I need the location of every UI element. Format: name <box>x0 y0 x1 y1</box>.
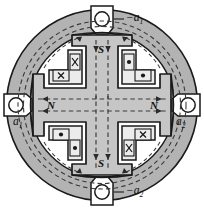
pole-label-top: S <box>98 44 104 55</box>
terminal-conductor-right <box>181 98 195 112</box>
pole-label-bottom: S <box>98 158 104 169</box>
terminal-label-bottom: −a2 <box>126 185 143 199</box>
terminal-conductor-top <box>95 12 109 26</box>
terminal-label-top: −a1 <box>126 12 143 26</box>
terminal-label-bottom-prefix: − <box>126 184 134 196</box>
terminal-label-right-sub: 2 <box>182 121 186 130</box>
terminal-label-bottom-sub: 2 <box>140 190 144 199</box>
terminal-slot-top[interactable] <box>91 6 113 34</box>
pole-label-right: N <box>150 100 158 111</box>
terminal-label-left-sub: 1 <box>19 121 23 130</box>
pole-label-left: N <box>47 100 55 111</box>
machine-cross-section-figure: −a1 a1 a2 −a2 S N N S <box>0 0 204 211</box>
terminal-conductor-left <box>9 98 23 112</box>
terminal-label-left: a1 <box>13 116 23 130</box>
terminal-slot-bottom[interactable] <box>91 177 113 205</box>
terminal-label-top-sub: 1 <box>140 17 144 26</box>
terminal-label-top-prefix: − <box>126 11 134 23</box>
terminal-conductor-bottom <box>95 185 109 199</box>
terminal-label-right: a2 <box>176 116 186 130</box>
machine-diagram-svg <box>0 0 204 211</box>
